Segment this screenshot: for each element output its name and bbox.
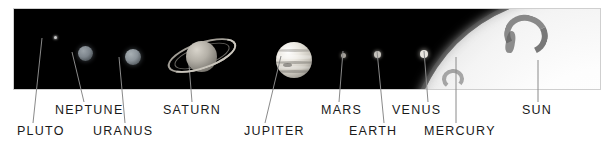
label-pluto: PLUTO (17, 125, 65, 138)
venus-dot-icon (420, 50, 428, 58)
jupiter-cloud-band (276, 66, 312, 69)
jupiter-cloud-band (276, 55, 312, 59)
label-jupiter: JUPITER (244, 125, 305, 138)
pluto-dot-icon (54, 36, 57, 39)
space-panel (14, 9, 600, 89)
jupiter-cloud-band (276, 70, 312, 73)
solar-system-figure: PLUTO NEPTUNE URANUS SATURN JUPITER MARS… (0, 0, 612, 166)
sun-chromosphere-edge (406, 9, 600, 89)
label-neptune: NEPTUNE (55, 104, 123, 117)
jupiter-cloud-band (276, 61, 312, 64)
label-venus: VENUS (392, 104, 441, 117)
label-sun: SUN (522, 104, 552, 117)
saturn-ringed-icon (166, 27, 242, 85)
label-saturn: SATURN (163, 104, 221, 117)
label-mars: MARS (321, 104, 362, 117)
neptune-sphere-icon (78, 46, 93, 61)
saturn-ring-front (164, 31, 241, 80)
label-uranus: URANUS (93, 125, 153, 138)
jupiter-banded-icon (276, 42, 312, 78)
uranus-sphere-icon (125, 49, 141, 65)
earth-dot-icon (374, 51, 381, 58)
label-mercury: MERCURY (424, 125, 496, 138)
jupiter-cloud-band (276, 49, 312, 52)
mars-dot-icon (341, 53, 346, 58)
label-earth: EARTH (349, 125, 397, 138)
jupiter-great-red-spot (283, 63, 292, 67)
